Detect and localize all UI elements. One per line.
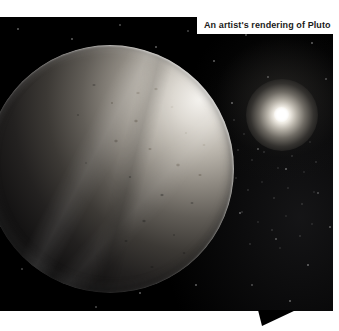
space-photo [0, 17, 333, 311]
caption-pointer-notch [258, 310, 296, 326]
image-caption-bar: An artist's rendering of Pluto [197, 17, 339, 34]
notch-triangle-icon [258, 310, 296, 326]
image-caption-text: An artist's rendering of Pluto [204, 21, 331, 30]
pluto-figure: An artist's rendering of Pluto [0, 0, 339, 331]
